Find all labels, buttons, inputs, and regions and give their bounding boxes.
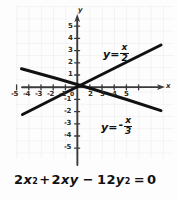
conic-var-2: xy <box>61 172 79 187</box>
xtick-label--4: -4 <box>23 91 30 98</box>
ytick-label--1: -1 <box>64 96 71 103</box>
origin-label: 0 <box>70 91 74 97</box>
line2-numerator: x <box>124 116 132 125</box>
grid-lines <box>16 6 174 158</box>
line2-lhs: y= <box>101 122 117 133</box>
xtick-label--5: -5 <box>11 91 18 98</box>
conic-op-1: + <box>39 172 50 187</box>
xtick-label-3: 3 <box>100 91 105 98</box>
line2-denominator: 3 <box>124 127 132 136</box>
line-label-y-equals-x-over-2: y= x 2 <box>103 44 129 64</box>
ytick-label-4: 4 <box>68 35 73 42</box>
xtick-label-4: 4 <box>112 91 117 98</box>
ytick-label--3: -3 <box>64 120 71 127</box>
y-axis-letter: y <box>78 7 83 14</box>
conic-equals: = <box>134 172 145 187</box>
ytick-label--4: -4 <box>64 132 71 139</box>
coordinate-graph <box>0 0 178 200</box>
conic-var-3: y <box>116 172 125 187</box>
conic-equation: 2 x 2 + 2 xy − 12 y 2 = 0 <box>14 172 156 187</box>
xtick-label-2: 2 <box>88 91 93 98</box>
xtick-label--2: -2 <box>47 91 54 98</box>
conic-var-1: x <box>23 172 32 187</box>
line2-fraction: x 3 <box>124 116 132 136</box>
conic-coef-2: 2 <box>52 172 61 187</box>
ytick-label-2: 2 <box>68 59 73 66</box>
x-axis-letter: x <box>166 83 171 90</box>
ytick-label-5: 5 <box>68 23 73 30</box>
ytick-label-3: 3 <box>68 47 73 54</box>
conic-op-2: − <box>83 172 94 187</box>
line1-numerator: x <box>121 43 129 52</box>
line2-negative-sign: - <box>118 119 123 130</box>
line1-fraction: x 2 <box>120 43 128 63</box>
line1-lhs: y= <box>103 49 119 60</box>
line-label-y-equals-minus-x-over-3: y= - x 3 <box>101 117 132 137</box>
ytick-label--2: -2 <box>64 108 71 115</box>
graph-page: -5 -4 -3 -2 -1 2 3 4 5 5 4 3 2 1 -1 -2 -… <box>0 0 178 200</box>
ytick-label-1: 1 <box>68 71 73 78</box>
line1-denominator: 2 <box>120 54 128 63</box>
xtick-label-5: 5 <box>124 91 129 98</box>
conic-coef-3: 12 <box>97 172 116 187</box>
xtick-label--3: -3 <box>35 91 42 98</box>
conic-rhs: 0 <box>147 172 156 187</box>
ytick-label--5: -5 <box>64 144 71 151</box>
